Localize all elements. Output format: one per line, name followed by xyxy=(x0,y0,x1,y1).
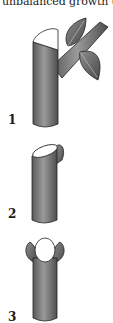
leaf-icon xyxy=(80,51,100,80)
figure-1-stem xyxy=(33,18,108,127)
figure-2-stem xyxy=(31,142,64,223)
figure-2-label: 2 xyxy=(8,207,16,221)
pruning-illustration: 1 2 3 xyxy=(0,0,113,323)
figure-3-stem xyxy=(26,238,64,321)
figure-1-label: 1 xyxy=(8,113,16,127)
figure-3-label: 3 xyxy=(8,310,16,323)
